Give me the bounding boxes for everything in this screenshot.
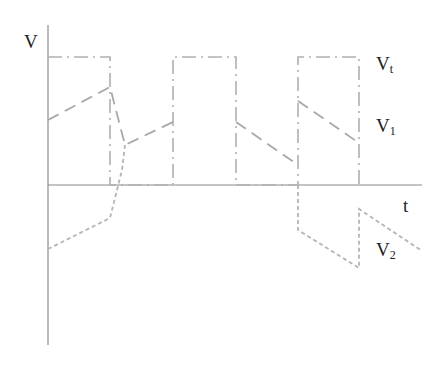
x-axis-label: t [403,196,408,215]
vt-waveform [48,57,359,185]
v1-waveform-seg3 [298,101,359,143]
y-axis-label: V [24,32,38,51]
v1-waveform-seg2 [236,122,298,165]
v2-label: V2 [376,240,396,261]
v1-label: V1 [376,116,396,137]
vt-label: Vt [376,54,393,75]
v2-waveform-seg1 [48,145,125,249]
